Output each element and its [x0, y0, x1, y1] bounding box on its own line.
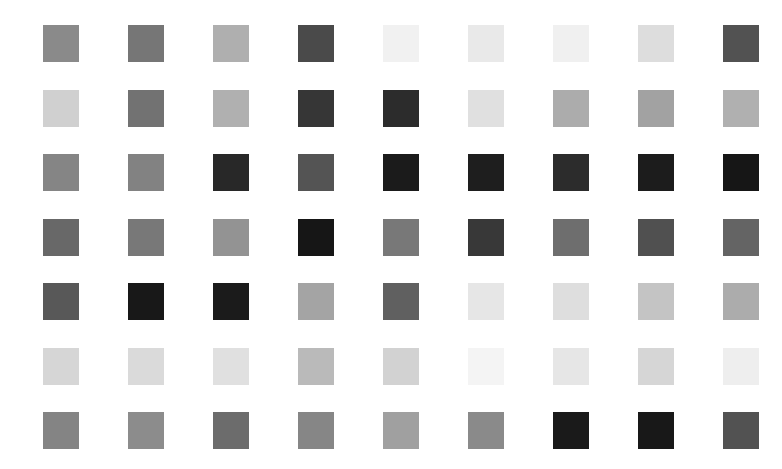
swatch-cell — [553, 25, 589, 62]
swatch-cell — [43, 283, 79, 320]
swatch-cell — [128, 154, 164, 191]
swatch-cell — [128, 348, 164, 385]
swatch-cell — [638, 25, 674, 62]
swatch-cell — [553, 90, 589, 127]
swatch-cell — [468, 412, 504, 449]
swatch-cell — [638, 219, 674, 256]
swatch-cell — [383, 90, 419, 127]
swatch-cell — [723, 283, 759, 320]
swatch-cell — [128, 90, 164, 127]
swatch-cell — [43, 348, 79, 385]
swatch-cell — [638, 348, 674, 385]
swatch-cell — [298, 219, 334, 256]
swatch-cell — [128, 283, 164, 320]
swatch-row — [0, 348, 782, 385]
swatch-cell — [43, 154, 79, 191]
swatch-cell — [128, 412, 164, 449]
swatch-cell — [298, 412, 334, 449]
swatch-cell — [213, 154, 249, 191]
swatch-cell — [383, 219, 419, 256]
swatch-cell — [128, 25, 164, 62]
swatch-row — [0, 25, 782, 62]
swatch-cell — [638, 412, 674, 449]
swatch-cell — [723, 25, 759, 62]
swatch-cell — [383, 348, 419, 385]
swatch-row — [0, 154, 782, 191]
swatch-cell — [468, 219, 504, 256]
swatch-row — [0, 283, 782, 320]
swatch-cell — [723, 219, 759, 256]
swatch-cell — [43, 25, 79, 62]
swatch-cell — [298, 348, 334, 385]
swatch-cell — [723, 154, 759, 191]
swatch-cell — [723, 90, 759, 127]
swatch-cell — [638, 90, 674, 127]
swatch-cell — [213, 219, 249, 256]
swatch-cell — [383, 283, 419, 320]
swatch-cell — [553, 412, 589, 449]
swatch-cell — [553, 348, 589, 385]
swatch-cell — [468, 90, 504, 127]
swatch-cell — [383, 25, 419, 62]
swatch-cell — [213, 90, 249, 127]
swatch-cell — [213, 412, 249, 449]
swatch-row — [0, 412, 782, 449]
swatch-row — [0, 219, 782, 256]
swatch-cell — [298, 25, 334, 62]
swatch-cell — [298, 90, 334, 127]
swatch-cell — [43, 90, 79, 127]
swatch-cell — [298, 154, 334, 191]
swatch-cell — [468, 154, 504, 191]
swatch-grid-canvas — [0, 0, 782, 469]
swatch-cell — [213, 348, 249, 385]
swatch-cell — [553, 154, 589, 191]
swatch-cell — [383, 412, 419, 449]
swatch-cell — [723, 412, 759, 449]
swatch-cell — [43, 219, 79, 256]
swatch-cell — [213, 283, 249, 320]
swatch-cell — [43, 412, 79, 449]
swatch-cell — [638, 154, 674, 191]
swatch-cell — [638, 283, 674, 320]
swatch-cell — [383, 154, 419, 191]
swatch-cell — [553, 283, 589, 320]
swatch-cell — [468, 348, 504, 385]
swatch-cell — [468, 25, 504, 62]
swatch-row — [0, 90, 782, 127]
swatch-cell — [213, 25, 249, 62]
swatch-cell — [298, 283, 334, 320]
swatch-cell — [128, 219, 164, 256]
swatch-cell — [468, 283, 504, 320]
swatch-cell — [723, 348, 759, 385]
swatch-cell — [553, 219, 589, 256]
